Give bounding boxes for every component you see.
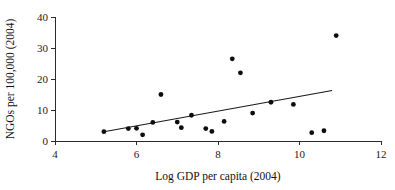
data-point: [222, 119, 227, 124]
data-point: [134, 126, 139, 131]
x-tick-label-10: 10: [294, 148, 306, 160]
data-point: [102, 129, 107, 134]
data-point: [126, 126, 131, 131]
x-tick-label-4: 4: [52, 148, 58, 160]
data-point: [189, 113, 194, 118]
data-point: [203, 126, 208, 131]
x-tick-label-12: 12: [376, 148, 387, 160]
y-tick-label-0: 0: [43, 135, 49, 147]
y-tick-label-20: 20: [37, 73, 49, 85]
data-point: [269, 100, 274, 105]
y-axis-title: NGOs per 100,000 (2004): [4, 18, 17, 139]
data-point: [291, 102, 296, 107]
data-point: [238, 70, 243, 75]
x-axis-title: Log GDP per capita (2004): [155, 170, 281, 183]
data-point: [230, 56, 235, 61]
data-point: [175, 120, 180, 125]
plot-canvas: 4681012010203040Log GDP per capita (2004…: [0, 0, 395, 190]
regression-line: [104, 90, 332, 131]
data-point: [334, 33, 339, 38]
data-point: [209, 129, 214, 134]
data-point: [140, 132, 145, 137]
data-point: [322, 128, 327, 133]
data-point: [309, 130, 314, 135]
y-tick-label-10: 10: [37, 104, 49, 116]
data-point: [159, 92, 164, 97]
y-tick-label-40: 40: [37, 11, 49, 23]
data-point: [179, 125, 184, 130]
y-tick-label-30: 30: [37, 42, 49, 54]
x-tick-label-8: 8: [215, 148, 221, 160]
scatter-plot-figure: 4681012010203040Log GDP per capita (2004…: [0, 0, 395, 190]
data-point: [150, 120, 155, 125]
data-point: [250, 111, 255, 116]
x-tick-label-6: 6: [134, 148, 140, 160]
